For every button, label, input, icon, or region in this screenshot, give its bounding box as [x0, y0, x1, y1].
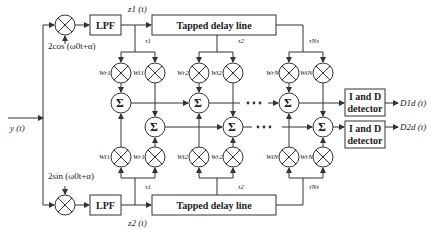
summer-icon: Σ: [318, 121, 326, 133]
weight-label: WiN: [300, 70, 312, 77]
block-diagram: y (t) 2cos (ω0t+α) 2sin (ω0t+α) LPF LPF …: [0, 0, 437, 233]
input-label: y (t): [10, 124, 25, 133]
tap-tau1-bottom: τ1: [145, 184, 151, 191]
tap-tau1-top: τ1: [145, 38, 151, 45]
weight-label: WiN: [266, 154, 278, 161]
top-lpf-label: LPF: [90, 20, 121, 32]
top-delay-line-label: Tapped delay line: [152, 20, 276, 32]
tap-tau2-top: τ2: [238, 38, 244, 45]
detector-1-label: I and D detector: [345, 91, 385, 114]
tap-tau2-bottom: τ2: [238, 184, 244, 191]
weight-label: Wi2: [177, 154, 188, 161]
weight-label: WrN: [300, 154, 313, 161]
weight-label: Wi1: [133, 70, 144, 77]
weight-label: Wr1: [133, 154, 145, 161]
summer-icon: Σ: [150, 121, 158, 133]
detector-2-output-label: D2d (t): [400, 123, 426, 132]
tap-tauNs-top: τNs: [309, 38, 319, 45]
summer-icon: Σ: [194, 97, 202, 109]
summer-icon: Σ: [228, 121, 236, 133]
z2-label: z2 (t): [128, 219, 147, 228]
z1-label: z1 (t): [128, 5, 147, 14]
tap-tauNs-bottom: τNs: [309, 184, 319, 191]
weight-label: Wr1: [99, 70, 111, 77]
diagram-wiring: [0, 0, 437, 233]
detector-1-output-label: D1d (t): [400, 99, 426, 108]
detector-2-label: I and D detector: [345, 123, 385, 146]
weight-label: Wr2: [177, 70, 189, 77]
weight-label: Wi1: [99, 154, 110, 161]
weight-label: Wi2: [211, 70, 222, 77]
sin-oscillator-label: 2sin (ω0t+α): [48, 172, 94, 181]
bottom-mixer: [55, 195, 75, 215]
summer-icon: Σ: [284, 97, 292, 109]
weight-label: Wr2: [211, 154, 223, 161]
summer-icon: Σ: [116, 97, 124, 109]
top-mixer: [55, 15, 75, 35]
weight-label: WrN: [266, 70, 279, 77]
bottom-lpf-label: LPF: [90, 200, 121, 212]
bottom-delay-line-label: Tapped delay line: [152, 200, 276, 212]
cos-oscillator-label: 2cos (ω0t+α): [48, 42, 95, 51]
